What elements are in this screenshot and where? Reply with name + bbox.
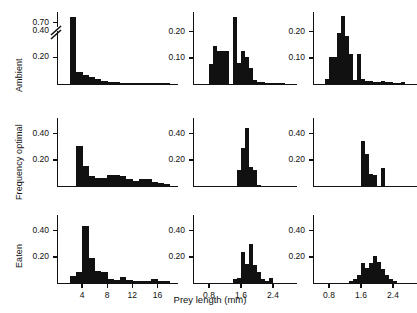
y-tick-label: 0.40	[271, 225, 305, 235]
x-axis-title: Prey length (mm)	[150, 294, 270, 305]
x-tick-mark	[392, 284, 393, 288]
x-tick-label: 2.4	[387, 290, 399, 300]
y-tick-mark	[309, 256, 313, 257]
x-tick-label: 1.6	[355, 290, 367, 300]
histogram-bar	[393, 281, 397, 283]
x-tick-mark	[360, 284, 361, 288]
y-tick-label: 0.20	[271, 251, 305, 261]
y-axis-line	[313, 215, 314, 284]
y-tick-mark	[309, 230, 313, 231]
x-tick-label: 0.8	[323, 290, 335, 300]
x-tick-mark	[328, 284, 329, 288]
